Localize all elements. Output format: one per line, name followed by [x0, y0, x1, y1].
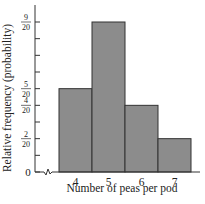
y-tick-label-denominator: 20: [22, 106, 30, 115]
y-axis-label: Relative frequency (probability): [1, 24, 14, 172]
y-axis: 0220420520920: [21, 5, 40, 178]
x-axis-label: Number of peas per pod: [66, 182, 177, 195]
y-tick-label-numerator: 2: [24, 130, 28, 139]
y-tick-label: 0: [25, 166, 31, 178]
bar-7: [158, 139, 191, 172]
y-tick-label-denominator: 20: [22, 23, 30, 32]
bars: [59, 22, 191, 172]
y-tick-label-denominator: 20: [22, 90, 30, 99]
histogram-chart: 0220420520920 4567 Relative frequency (p…: [0, 0, 205, 204]
y-tick-label-denominator: 20: [22, 140, 30, 149]
y-tick-label-numerator: 5: [24, 80, 28, 89]
bar-6: [125, 105, 158, 172]
y-tick-label-numerator: 9: [24, 13, 28, 22]
bar-5: [92, 22, 125, 172]
bar-4: [59, 89, 92, 172]
chart-canvas: 0220420520920 4567 Relative frequency (p…: [0, 0, 205, 204]
